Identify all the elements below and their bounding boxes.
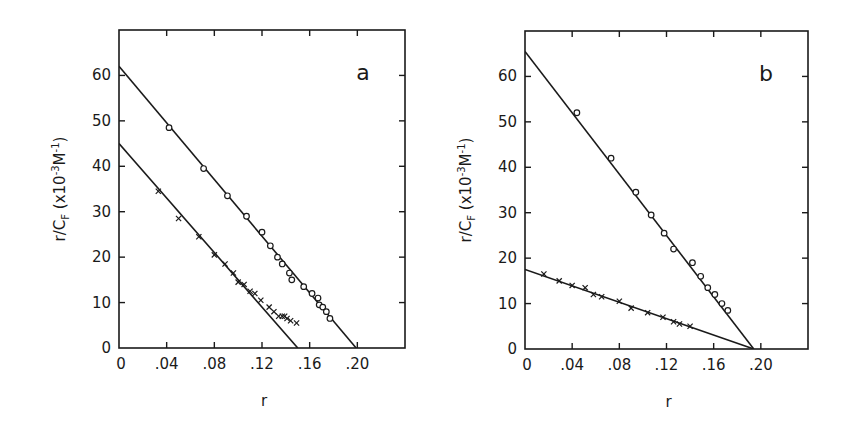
data-point-circle bbox=[725, 308, 731, 314]
data-point-circle bbox=[268, 243, 274, 249]
data-point-circle bbox=[661, 230, 667, 236]
y-tick-label: 10 bbox=[92, 294, 111, 312]
y-tick-label: 50 bbox=[92, 112, 111, 130]
panel-label: a bbox=[356, 60, 369, 85]
x-tick-label: 0 bbox=[116, 355, 126, 373]
data-point-circle bbox=[279, 261, 285, 267]
y-tick-label: 0 bbox=[101, 339, 111, 357]
x-tick-label: .12 bbox=[655, 356, 679, 374]
x-tick-label: .16 bbox=[298, 355, 322, 373]
data-point-cross bbox=[267, 305, 272, 310]
data-point-cross bbox=[294, 320, 299, 325]
y-tick-label: 30 bbox=[92, 203, 111, 221]
data-point-cross bbox=[271, 309, 276, 314]
y-tick-label: 60 bbox=[92, 66, 111, 84]
data-point-circle bbox=[690, 260, 696, 266]
data-point-cross bbox=[583, 285, 588, 290]
y-tick-label: 10 bbox=[498, 295, 517, 313]
data-point-circle bbox=[327, 316, 333, 322]
data-point-circle bbox=[259, 229, 265, 235]
y-tick-label: 40 bbox=[92, 157, 111, 175]
x-tick-label: .08 bbox=[202, 355, 226, 373]
data-point-circle bbox=[315, 295, 321, 301]
data-point-circle bbox=[574, 110, 580, 116]
data-point-circle bbox=[309, 291, 315, 297]
scatter-plot-b: 0.04.08.12.16.200102030405060rr/CF (x10-… bbox=[406, 0, 851, 422]
x-tick-label: .16 bbox=[702, 356, 726, 374]
x-tick-label: .08 bbox=[607, 356, 631, 374]
data-point-circle bbox=[287, 270, 293, 276]
x-tick-label: .20 bbox=[749, 356, 773, 374]
y-axis-title: r/CF (x10-3M-1) bbox=[456, 138, 477, 243]
data-point-circle bbox=[671, 246, 677, 252]
x-tick-label: .04 bbox=[560, 356, 584, 374]
y-tick-label: 0 bbox=[507, 340, 517, 358]
data-point-cross bbox=[252, 291, 257, 296]
data-point-circle bbox=[289, 277, 295, 283]
data-point-circle bbox=[225, 193, 231, 199]
x-axis-title: r bbox=[261, 392, 268, 410]
data-point-circle bbox=[608, 155, 614, 161]
data-point-circle bbox=[712, 292, 718, 298]
y-tick-label: 20 bbox=[92, 248, 111, 266]
data-point-circle bbox=[275, 254, 281, 260]
data-point-cross bbox=[258, 298, 263, 303]
y-tick-label: 40 bbox=[498, 158, 517, 176]
x-axis-title: r bbox=[665, 393, 672, 411]
chart-panel-a: 0.04.08.12.16.200102030405060rr/CF (x10-… bbox=[0, 0, 425, 422]
panel-label: b bbox=[759, 61, 773, 86]
y-tick-label: 50 bbox=[498, 113, 517, 131]
x-tick-label: .04 bbox=[155, 355, 179, 373]
data-point-circle bbox=[633, 189, 639, 195]
scatter-plot-a: 0.04.08.12.16.200102030405060rr/CF (x10-… bbox=[0, 0, 425, 422]
data-point-circle bbox=[244, 213, 250, 219]
y-tick-label: 30 bbox=[498, 204, 517, 222]
x-tick-label: 0 bbox=[522, 356, 532, 374]
x-tick-label: .20 bbox=[345, 355, 369, 373]
data-point-circle bbox=[166, 125, 172, 131]
data-point-cross bbox=[176, 216, 181, 221]
data-point-circle bbox=[698, 274, 704, 280]
data-point-circle bbox=[705, 285, 711, 291]
y-tick-label: 60 bbox=[498, 67, 517, 85]
data-point-circle bbox=[648, 212, 654, 218]
chart-panel-b: 0.04.08.12.16.200102030405060rr/CF (x10-… bbox=[406, 0, 831, 422]
data-point-circle bbox=[719, 301, 725, 307]
data-point-circle bbox=[301, 284, 307, 290]
data-point-circle bbox=[201, 166, 207, 172]
y-tick-label: 20 bbox=[498, 249, 517, 267]
data-point-circle bbox=[324, 309, 330, 315]
y-axis-title: r/CF (x10-3M-1) bbox=[50, 137, 71, 242]
x-tick-label: .12 bbox=[250, 355, 274, 373]
